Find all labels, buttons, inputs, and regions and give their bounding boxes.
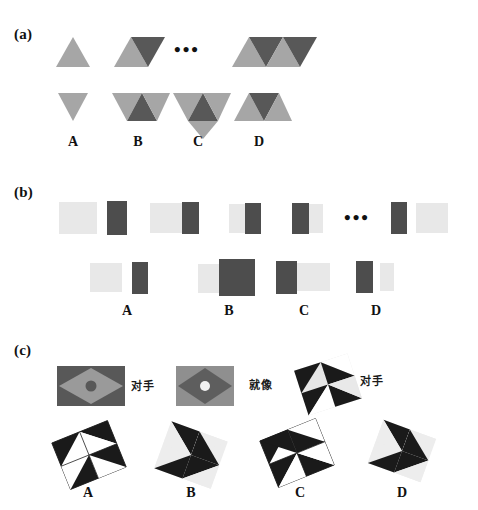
block-dark xyxy=(245,203,261,234)
panel-c-relation-3: 对手 xyxy=(360,372,383,388)
block-dark xyxy=(132,262,148,294)
panel-a-option-b-shape[interactable] xyxy=(111,92,171,122)
panel-a-term-2 xyxy=(113,36,166,68)
panel-c-option-b-label: B xyxy=(181,485,201,501)
block-light xyxy=(297,263,330,291)
panel-a-label: (a) xyxy=(14,26,32,43)
block-light xyxy=(198,264,219,293)
block-dark xyxy=(219,259,255,296)
block-light xyxy=(309,204,323,233)
block-light xyxy=(229,204,245,233)
panel-c-prompt-shape-3 xyxy=(298,357,358,412)
panel-c-label: (c) xyxy=(14,342,31,359)
panel-a-term-n xyxy=(231,36,320,68)
block-dark xyxy=(182,202,199,234)
panel-c-relation-2: 就像 xyxy=(249,376,272,392)
panel-b-option-a-label: A xyxy=(117,303,137,319)
panel-c-option-a-shape[interactable] xyxy=(53,424,125,486)
block-dark xyxy=(356,261,373,293)
panel-a-option-a-label: A xyxy=(63,134,83,150)
panel-c-option-c-shape[interactable] xyxy=(261,422,333,484)
panel-c-option-d-shape[interactable] xyxy=(366,420,438,482)
panel-c-relation-1: 对手 xyxy=(131,377,154,393)
block-dark xyxy=(391,202,407,234)
panel-b-option-c-label: C xyxy=(294,303,314,319)
panel-a-ellipsis: ••• xyxy=(174,40,200,59)
panel-c-prompt-shape-2 xyxy=(176,366,234,406)
panel-a-option-d-label: D xyxy=(249,134,269,150)
block-light xyxy=(380,263,394,291)
panel-c-option-b-shape[interactable] xyxy=(155,424,227,486)
block-light xyxy=(150,203,182,233)
panel-b-label: (b) xyxy=(14,184,33,201)
panel-c-prompt-shape-1 xyxy=(57,366,125,406)
panel-a-option-b-label: B xyxy=(128,134,148,150)
panel-a-option-d-shape[interactable] xyxy=(233,92,293,122)
panel-b-ellipsis: ••• xyxy=(344,208,370,227)
panel-a-option-c-shape[interactable] xyxy=(172,92,232,140)
panel-b-option-b-label: B xyxy=(219,303,239,319)
figure-canvas: (a) ••• A B xyxy=(0,0,478,510)
block-dark xyxy=(107,201,127,235)
panel-a-option-a-shape[interactable] xyxy=(57,92,89,122)
panel-b-option-d-label: D xyxy=(366,303,386,319)
block-dark xyxy=(292,203,309,234)
block-light xyxy=(59,202,97,234)
panel-c-option-a-label: A xyxy=(78,485,98,501)
block-dark xyxy=(276,261,297,294)
panel-a-term-1 xyxy=(55,36,91,68)
panel-a-option-c-label: C xyxy=(188,134,208,150)
panel-c-option-d-label: D xyxy=(392,485,412,501)
block-light xyxy=(90,263,122,292)
panel-c-option-c-label: C xyxy=(290,485,310,501)
block-light xyxy=(416,203,448,233)
